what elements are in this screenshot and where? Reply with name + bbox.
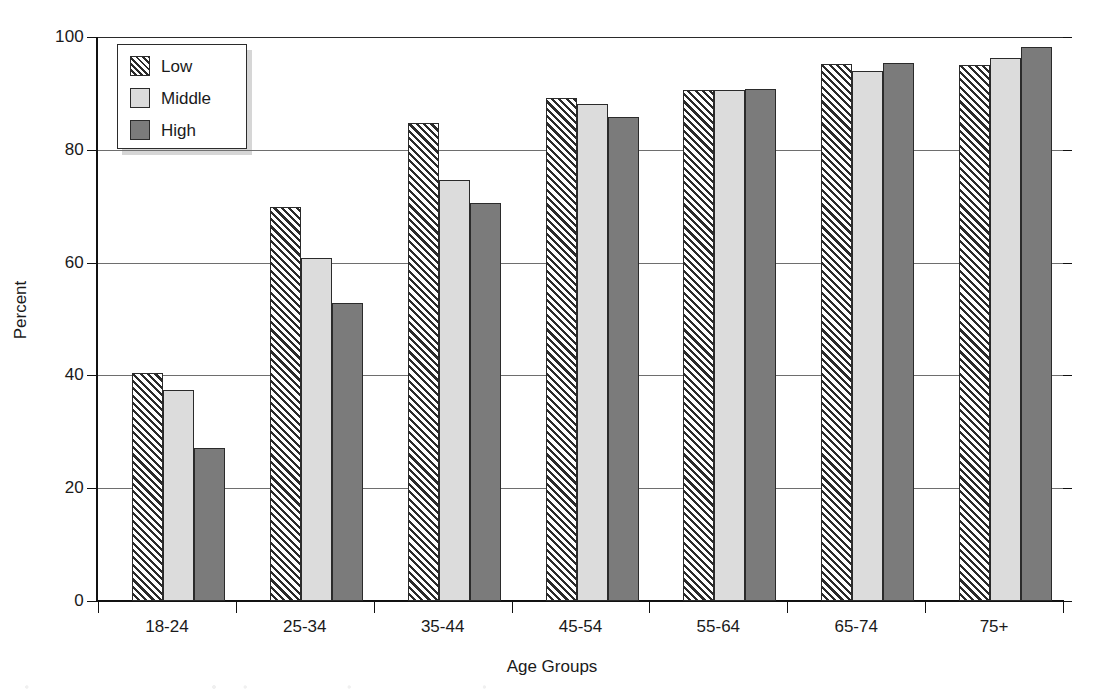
bar-low-35-44 <box>408 123 439 601</box>
y-tick-label: 20 <box>24 479 84 496</box>
bar-group <box>512 37 650 601</box>
bar-low-18-24 <box>132 373 163 601</box>
y-tick-mark <box>87 263 96 264</box>
bar-group <box>374 37 512 601</box>
x-category-label-35-44: 35-44 <box>363 617 523 637</box>
bar-high-45-54 <box>608 117 639 601</box>
y-tick-mark-right <box>1063 263 1072 264</box>
bar-low-45-54 <box>546 98 577 601</box>
bar-low-55-64 <box>683 90 714 601</box>
y-tick-mark <box>87 375 96 376</box>
x-tick-mark <box>1063 602 1064 613</box>
bar-middle-65-74 <box>852 71 883 601</box>
y-tick-mark-right <box>1063 150 1072 151</box>
bar-middle-45-54 <box>577 104 608 601</box>
bar-group <box>649 37 787 601</box>
legend-item-high: High <box>130 120 196 140</box>
bar-middle-35-44 <box>439 180 470 601</box>
y-tick-mark-right <box>1063 601 1072 602</box>
y-tick-mark <box>87 37 96 38</box>
legend-label-high: High <box>161 122 196 139</box>
bar-middle-25-34 <box>301 258 332 601</box>
x-category-label-45-54: 45-54 <box>501 617 661 637</box>
bar-high-65-74 <box>883 63 914 601</box>
bar-middle-75+ <box>990 58 1021 601</box>
y-tick-label: 100 <box>24 28 84 45</box>
y-tick-mark-right <box>1063 37 1072 38</box>
x-axis-title: Age Groups <box>0 657 1104 677</box>
bar-group <box>925 37 1063 601</box>
x-tick-mark <box>374 602 375 613</box>
y-tick-label: 80 <box>24 141 84 158</box>
legend-item-low: Low <box>130 56 192 76</box>
legend-label-middle: Middle <box>161 90 211 107</box>
x-category-label-55-64: 55-64 <box>638 617 798 637</box>
y-tick-mark <box>87 150 96 151</box>
bar-high-18-24 <box>194 448 225 601</box>
x-category-label-65-74: 65-74 <box>776 617 936 637</box>
bar-high-75+ <box>1021 47 1052 601</box>
x-category-label-18-24: 18-24 <box>87 617 247 637</box>
hatch-swatch-icon <box>130 56 150 76</box>
y-axis-title: Percent <box>11 281 31 340</box>
bar-low-75+ <box>959 65 990 601</box>
bar-middle-55-64 <box>714 90 745 601</box>
bar-chart: 020406080100 Percent 18-2425-3435-4445-5… <box>0 0 1104 693</box>
x-tick-mark <box>98 602 99 613</box>
bar-high-55-64 <box>745 89 776 601</box>
y-tick-mark-right <box>1063 375 1072 376</box>
bar-low-25-34 <box>270 207 301 601</box>
y-tick-mark <box>87 601 96 602</box>
x-category-label-75+: 75+ <box>914 617 1074 637</box>
bar-group <box>787 37 925 601</box>
y-tick-mark <box>87 488 96 489</box>
light-gray-swatch-icon <box>130 88 150 108</box>
bar-low-65-74 <box>821 64 852 601</box>
legend-label-low: Low <box>161 58 192 75</box>
y-tick-mark-right <box>1063 488 1072 489</box>
y-tick-label: 40 <box>24 366 84 383</box>
legend-item-middle: Middle <box>130 88 211 108</box>
bar-high-35-44 <box>470 203 501 601</box>
y-tick-label: 60 <box>24 254 84 271</box>
x-tick-mark <box>236 602 237 613</box>
x-tick-mark <box>512 602 513 613</box>
bar-middle-18-24 <box>163 390 194 602</box>
x-tick-mark <box>649 602 650 613</box>
legend: Low Middle High <box>117 44 247 149</box>
bar-high-25-34 <box>332 303 363 601</box>
y-tick-label: 0 <box>24 592 84 609</box>
dark-gray-swatch-icon <box>130 120 150 140</box>
x-category-label-25-34: 25-34 <box>225 617 385 637</box>
x-tick-mark <box>787 602 788 613</box>
x-tick-mark <box>925 602 926 613</box>
scan-artifact <box>6 684 526 690</box>
bar-group <box>236 37 374 601</box>
